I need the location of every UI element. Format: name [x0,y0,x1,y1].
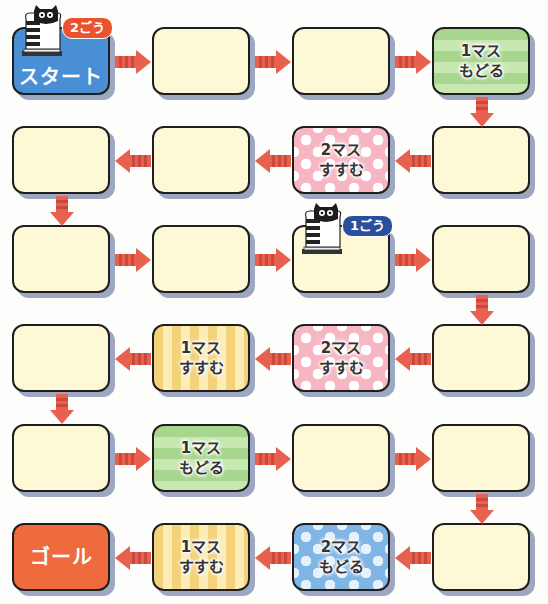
board-cell-c8 [12,126,110,194]
board-cell-c10 [152,225,250,293]
cell-label: 2マス すすむ [319,338,364,378]
board-cell-c13 [432,324,530,392]
arrow-left-icon [255,149,291,173]
arrow-left-icon [255,347,291,371]
board-cell-c14: 2マス すすむ [292,324,390,392]
arrow-down-icon [470,97,494,127]
sugoroku-board: スタート1マス もどる2マス すすむ2マス すすむ1マス すすむ1マス もどる2… [0,0,548,604]
arrow-right-icon [395,248,431,272]
board-cell-c5 [432,126,530,194]
cell-label: スタート [19,67,103,87]
board-cell-c23: 1マス すすむ [152,523,250,591]
cell-label: 2マス もどる [319,537,364,577]
arrow-left-icon [395,546,431,570]
arrow-left-icon [255,546,291,570]
cell-label: ゴール [30,547,93,567]
cell-label: 1マス もどる [179,438,224,478]
cell-label: 1マス もどる [459,41,504,81]
cat-piece-icon [20,5,64,57]
arrow-right-icon [395,50,431,74]
arrow-right-icon [255,50,291,74]
board-cell-c20 [432,424,530,492]
board-cell-c4: 1マス もどる [432,27,530,95]
game-piece-player-2[interactable] [20,5,64,57]
board-cell-c15: 1マス すすむ [152,324,250,392]
arrow-right-icon [255,248,291,272]
board-cell-goal: ゴール [12,523,110,591]
arrow-left-icon [395,347,431,371]
arrow-right-icon [115,447,151,471]
board-cell-c21 [432,523,530,591]
board-cell-c7 [152,126,250,194]
arrow-down-icon [470,295,494,325]
arrow-left-icon [115,149,151,173]
player-badge-player-2: 2ごう [62,17,113,39]
arrow-left-icon [115,546,151,570]
arrow-right-icon [395,447,431,471]
cell-label: 1マス すすむ [179,537,224,577]
cell-label: 1マス すすむ [179,338,224,378]
arrow-left-icon [115,347,151,371]
board-cell-c3 [292,27,390,95]
board-cell-c6: 2マス すすむ [292,126,390,194]
board-cell-c9 [12,225,110,293]
board-cell-c19 [292,424,390,492]
arrow-down-icon [50,196,74,226]
player-badge-player-1: 1ごう [342,215,393,237]
board-cell-c12 [432,225,530,293]
cat-piece-icon [300,203,344,255]
arrow-down-icon [50,394,74,424]
arrow-left-icon [395,149,431,173]
arrow-down-icon [470,494,494,524]
game-piece-player-1[interactable] [300,203,344,255]
arrow-right-icon [115,248,151,272]
arrow-right-icon [115,50,151,74]
board-cell-c2 [152,27,250,95]
board-cell-c18: 1マス もどる [152,424,250,492]
cell-label: 2マス すすむ [319,140,364,180]
board-cell-c17 [12,424,110,492]
arrow-right-icon [255,447,291,471]
board-cell-c16 [12,324,110,392]
board-cell-c22: 2マス もどる [292,523,390,591]
